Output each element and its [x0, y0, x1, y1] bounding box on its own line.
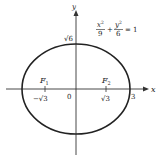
- x-axis-arrow-icon: [143, 87, 149, 92]
- eq-term1-denominator: 9: [98, 30, 102, 38]
- eq-plus: +: [107, 26, 113, 34]
- eq-term1-numerator: x2: [97, 20, 104, 29]
- x-axis-label: x: [151, 85, 156, 94]
- focus1-x-label: −√3: [33, 95, 48, 103]
- focus2-label: F2: [101, 76, 111, 86]
- y-intercept-label: √6: [64, 35, 73, 43]
- focus1-label: F1: [39, 76, 49, 86]
- ellipse-equation: x2 9 + y2 6 = 1: [96, 20, 138, 38]
- eq-term2-numerator: y2: [114, 20, 122, 29]
- focus1-subscript: 1: [46, 80, 49, 86]
- eq-equals-one: = 1: [125, 26, 138, 34]
- eq-term2-denominator: 6: [116, 30, 121, 38]
- x-intercept-label: 3: [131, 93, 135, 101]
- focus2-subscript: 2: [108, 80, 111, 86]
- origin-label: 0: [67, 93, 71, 101]
- focus2-x-label: √3: [101, 95, 110, 103]
- ellipse-diagram: x y 0 √6 3 F1 −√3 F2 √3 x2 9 + y2 6 = 1: [0, 0, 160, 159]
- y-axis-label: y: [71, 3, 77, 11]
